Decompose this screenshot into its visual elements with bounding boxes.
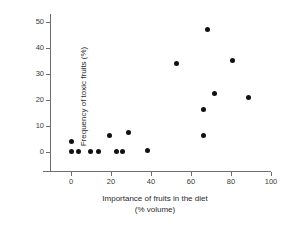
x-tick-20 <box>111 172 112 176</box>
data-point <box>230 58 235 63</box>
data-point <box>76 149 81 154</box>
x-tick-label-0: 0 <box>59 177 83 186</box>
x-tick-60 <box>191 172 192 176</box>
data-point <box>174 61 179 66</box>
data-point <box>88 149 93 154</box>
x-tick-label-60: 60 <box>179 177 203 186</box>
scatter-plot-figure: 01020304050 020406080100 Frequency of to… <box>0 0 295 225</box>
data-point <box>69 149 74 154</box>
y-tick-label-50: 50 <box>26 17 44 26</box>
x-tick-label-20: 20 <box>99 177 123 186</box>
x-tick-label-100: 100 <box>259 177 283 186</box>
data-point <box>120 149 125 154</box>
x-tick-100 <box>271 172 272 176</box>
x-axis-title-sub: (% volume) <box>40 204 270 215</box>
data-point <box>69 139 74 144</box>
data-point <box>96 149 101 154</box>
data-point <box>201 107 206 112</box>
data-point <box>126 130 131 135</box>
y-tick-label-30: 30 <box>26 69 44 78</box>
y-tick-label-0: 0 <box>26 147 44 156</box>
x-tick-label-40: 40 <box>139 177 163 186</box>
data-point <box>145 148 150 153</box>
data-point <box>246 95 251 100</box>
x-tick-0 <box>71 172 72 176</box>
x-tick-40 <box>151 172 152 176</box>
data-point <box>205 27 210 32</box>
data-point <box>212 91 217 96</box>
x-tick-80 <box>231 172 232 176</box>
data-point <box>114 149 119 154</box>
data-point <box>107 133 112 138</box>
x-axis-title-main: Importance of fruits in the diet <box>102 194 207 203</box>
y-tick-label-40: 40 <box>26 43 44 52</box>
x-axis-title: Importance of fruits in the diet (% volu… <box>40 193 270 215</box>
x-tick-label-80: 80 <box>219 177 243 186</box>
y-tick-label-10: 10 <box>26 121 44 130</box>
y-tick-label-20: 20 <box>26 95 44 104</box>
data-point <box>201 133 206 138</box>
plot-area: Frequency of toxic fruits (%) <box>50 14 262 172</box>
